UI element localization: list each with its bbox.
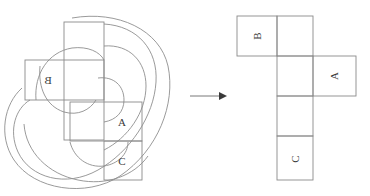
right-label-group: B A C: [251, 32, 340, 162]
knot-strand-3: [104, 46, 146, 150]
arrow-head-icon: [219, 92, 227, 100]
net-cell-mid: [277, 56, 313, 96]
net-label-c: C: [289, 155, 301, 162]
left-label-group: B A C: [44, 74, 126, 167]
transformation-arrow: [190, 92, 227, 100]
net-label-b: B: [251, 32, 263, 39]
left-label-b: B: [44, 74, 51, 86]
left-face-b: [25, 60, 104, 100]
knot-to-net-figure: B A C B A C: [0, 0, 370, 196]
net-label-a: A: [328, 72, 340, 80]
left-label-a: A: [118, 116, 126, 128]
net-cell-lower: [277, 96, 313, 136]
knot-strand-8: [24, 124, 148, 182]
left-label-c: C: [118, 155, 125, 167]
net-cell-top-right: [277, 16, 313, 56]
